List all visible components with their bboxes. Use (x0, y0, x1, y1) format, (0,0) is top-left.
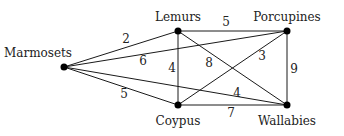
edge-weight-lemurs-porcupines: 5 (222, 15, 230, 29)
node-wallabies (284, 102, 291, 109)
edge-marmosets-lemurs (64, 31, 178, 67)
edge-weight-coypus-wallabies: 7 (227, 106, 235, 120)
node-label-wallabies: Wallabies (258, 114, 316, 128)
node-labels: MarmosetsLemursPorcupinesCoypusWallabies (4, 10, 321, 128)
edge-weight-marmosets-wallabies: 4 (233, 86, 241, 100)
node-label-lemurs: Lemurs (155, 10, 201, 24)
weighted-graph-diagram: 2654548397 MarmosetsLemursPorcupinesCoyp… (0, 0, 344, 136)
edge-weight-marmosets-coypus: 5 (120, 87, 128, 101)
node-marmosets (61, 64, 68, 71)
node-coypus (175, 102, 182, 109)
edge-weight-lemurs-coypus: 4 (168, 61, 176, 75)
node-label-porcupines: Porcupines (253, 10, 321, 24)
node-label-marmosets: Marmosets (4, 46, 72, 60)
edge-weight-lemurs-wallabies: 8 (205, 56, 213, 70)
node-porcupines (284, 28, 291, 35)
node-lemurs (175, 28, 182, 35)
node-label-coypus: Coypus (156, 114, 201, 128)
edge-weight-marmosets-lemurs: 2 (122, 32, 130, 46)
edge-weight-porcupines-wallabies: 9 (290, 62, 298, 76)
edge-weight-porcupines-coypus: 3 (258, 49, 266, 63)
edge-weight-marmosets-porcupines: 6 (139, 54, 147, 68)
